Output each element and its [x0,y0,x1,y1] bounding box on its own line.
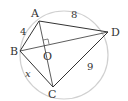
diagonal-bd [20,32,108,51]
side-ab-label: 4 [20,27,26,37]
point-d-label: D [111,27,120,38]
circumcircle [20,11,108,99]
geometry-diagram: A B C D O 4 8 9 x [0,0,128,101]
point-c-label: C [48,89,56,100]
side-cd-label: 9 [87,62,93,72]
point-o-label: O [43,51,52,62]
point-a-label: A [31,8,39,19]
diagram-svg [0,0,128,101]
side-ad-label: 8 [71,10,77,20]
side-bc-label: x [25,69,31,79]
point-b-label: B [10,46,18,57]
quadrilateral [20,21,108,87]
